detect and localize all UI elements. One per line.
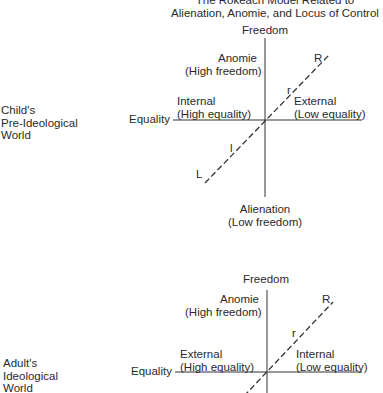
external-sub-bottom: (High equality): [180, 361, 254, 374]
label-internal-bottom: Internal (Low equality): [296, 348, 368, 374]
internal-sub: (High equality): [177, 108, 251, 121]
internal-line: Internal: [177, 95, 251, 108]
label-alienation: Alienation (Low freedom): [220, 203, 310, 229]
marker-R-top: R: [314, 52, 322, 65]
label-internal-top: Internal (High equality): [177, 95, 251, 121]
alienation-sub: (Low freedom): [220, 216, 310, 229]
external-line: External: [294, 95, 366, 108]
anomie-line-bottom: Anomie: [185, 293, 267, 306]
label-anomie-bottom: Anomie (High freedom): [185, 293, 267, 319]
marker-r-top: r: [287, 84, 291, 97]
label-external-top: External (Low equality): [294, 95, 366, 121]
marker-l-top: l: [230, 142, 233, 155]
label-external-bottom: External (High equality): [180, 348, 254, 374]
axis-label-equality-top: Equality: [129, 113, 170, 126]
external-sub: (Low equality): [294, 108, 366, 121]
external-line-bottom: External: [180, 348, 254, 361]
internal-sub-bottom: (Low equality): [296, 361, 368, 374]
world-label-adult: Adult's Ideological World: [3, 357, 58, 393]
alienation-line: Alienation: [220, 203, 310, 216]
marker-r-bottom: r: [292, 327, 296, 340]
top-axis-label-freedom-bottom: Freedom: [236, 273, 296, 286]
label-anomie-top: Anomie (High freedom): [185, 52, 265, 78]
axis-label-equality-bottom: Equality: [131, 365, 172, 378]
anomie-sub: (High freedom): [185, 65, 265, 78]
internal-line-bottom: Internal: [296, 348, 368, 361]
marker-L-top: L: [196, 168, 202, 181]
marker-R-bottom: R: [322, 293, 330, 306]
anomie-sub-bottom: (High freedom): [185, 306, 267, 319]
world-label-child: Child's Pre-Ideological World: [1, 104, 78, 142]
top-axis-label-freedom: Freedom: [235, 24, 295, 37]
anomie-line: Anomie: [185, 52, 265, 65]
